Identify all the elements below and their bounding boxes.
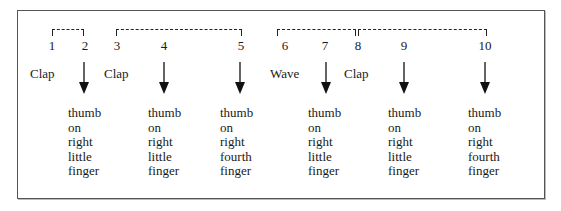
down-arrow-icon <box>398 62 410 94</box>
description-line: right <box>308 135 341 150</box>
description-line: thumb <box>148 106 181 121</box>
description-line: finger <box>388 164 421 179</box>
beat-number: 6 <box>282 38 289 54</box>
down-arrow-icon <box>78 62 90 94</box>
down-arrow-icon <box>479 62 491 94</box>
down-arrow-icon <box>320 62 332 94</box>
description-line: right <box>148 135 181 150</box>
beat-number: 8 <box>355 38 362 54</box>
description-line: finger <box>68 164 101 179</box>
grouping-bracket <box>277 29 356 36</box>
description-line: thumb <box>68 106 101 121</box>
beat-number: 3 <box>114 38 121 54</box>
beat-number: 5 <box>238 38 245 54</box>
description-line: fourth <box>220 150 253 165</box>
grouping-bracket <box>116 29 242 36</box>
finger-description: thumbonrightlittlefinger <box>388 106 421 179</box>
finger-description: thumbonrightfourthfinger <box>220 106 253 179</box>
description-line: little <box>388 150 421 165</box>
finger-description: thumbonrightfourthfinger <box>468 106 501 179</box>
description-line: thumb <box>220 106 253 121</box>
description-line: on <box>68 121 101 136</box>
grouping-bracket <box>52 29 84 36</box>
description-line: on <box>388 121 421 136</box>
description-line: thumb <box>388 106 421 121</box>
description-line: finger <box>148 164 181 179</box>
finger-description: thumbonrightlittlefinger <box>308 106 341 179</box>
grouping-bracket <box>358 29 487 36</box>
action-label: Wave <box>270 66 299 82</box>
action-label: Clap <box>30 66 55 82</box>
action-label: Clap <box>344 66 369 82</box>
description-line: right <box>220 135 253 150</box>
down-arrow-icon <box>234 62 246 94</box>
description-line: little <box>148 150 181 165</box>
beat-number: 4 <box>161 38 168 54</box>
beat-number: 1 <box>49 38 56 54</box>
description-line: thumb <box>308 106 341 121</box>
beat-number: 7 <box>322 38 329 54</box>
description-line: on <box>468 121 501 136</box>
description-line: thumb <box>468 106 501 121</box>
action-label: Clap <box>104 66 129 82</box>
beat-number: 9 <box>401 38 408 54</box>
description-line: on <box>148 121 181 136</box>
beat-number: 2 <box>82 38 89 54</box>
description-line: finger <box>220 164 253 179</box>
description-line: finger <box>308 164 341 179</box>
down-arrow-icon <box>158 62 170 94</box>
finger-description: thumbonrightlittlefinger <box>148 106 181 179</box>
description-line: on <box>220 121 253 136</box>
description-line: finger <box>468 164 501 179</box>
beat-number: 10 <box>479 38 492 54</box>
description-line: right <box>68 135 101 150</box>
description-line: little <box>308 150 341 165</box>
description-line: right <box>388 135 421 150</box>
description-line: on <box>308 121 341 136</box>
finger-description: thumbonrightlittlefinger <box>68 106 101 179</box>
description-line: right <box>468 135 501 150</box>
description-line: fourth <box>468 150 501 165</box>
description-line: little <box>68 150 101 165</box>
